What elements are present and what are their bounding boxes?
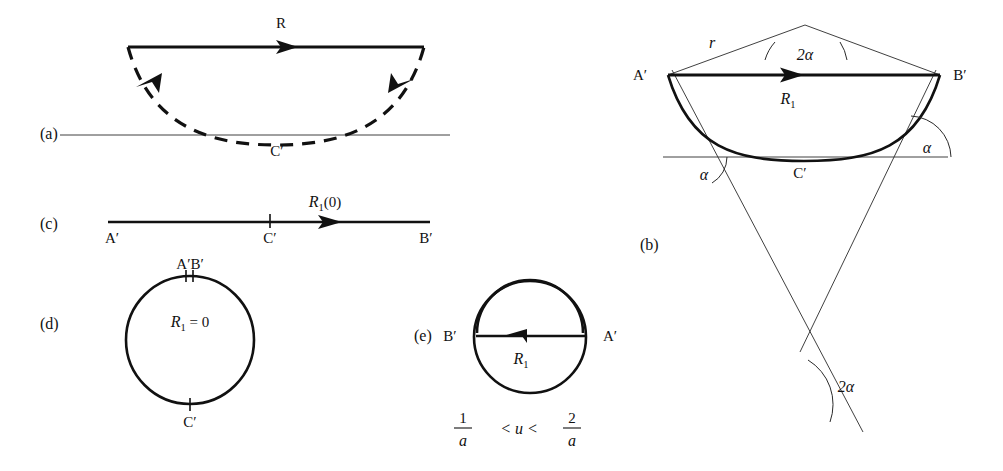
panel-b-long-line-right [800,70,936,352]
geodesic-figure-svg: (a) R C′ (b) [0,0,1003,471]
panel-b-key: (b) [640,236,659,254]
panel-b-apex-angle-label: 2α [797,46,814,63]
panel-e-vector-sub: 1 [523,359,528,370]
panel-b-bottom-angle-arc [808,360,833,422]
panel-e-point-b-label: B′ [443,328,456,344]
panel-b-point-c-label: C′ [793,165,806,181]
panel-b-long-line-left [672,70,863,432]
panel-c-vector-base: R [308,193,319,210]
panel-a-point-c-label: C′ [270,143,283,159]
panel-b-point-a-label: A′ [633,67,647,83]
panel-c-point-c-label: C′ [263,230,276,246]
panel-b-geodesic-arc [668,75,940,161]
panel-b-point-b-label: B′ [953,67,966,83]
panel-c-point-b-label: B′ [419,230,432,246]
panel-e-chord-arrowhead [503,329,527,343]
panel-b-vector-r1-sub: 1 [790,99,795,110]
panel-d-key: (d) [40,315,59,333]
panel-e: (e) B′ A′ R1 1 a < u < 2 a [414,280,617,449]
panel-b-alpha-left-label: α [700,166,709,183]
panel-a-dashed-arc [128,47,424,145]
panel-b-bottom-angle-label: 2α [838,378,855,395]
panel-c-vector-arg: (0) [324,194,342,211]
panel-b-vector-r1-label: R1 [779,90,795,110]
panel-e-key: (e) [414,327,432,345]
panel-e-inner-arc [477,280,583,333]
panel-b-vector-r1-base: R [779,90,790,107]
panel-a-arrowhead-right [388,73,414,93]
panel-d: (d) A′B′ C′ R1 = 0 [40,256,254,430]
panel-e-ineq-den1: a [459,432,467,449]
panel-c-key: (c) [40,215,58,233]
panel-d-circle [126,276,254,404]
panel-b-radius-left [668,25,805,75]
panel-b: (b) A′ B′ C [633,25,967,432]
panel-a-vector-label: R [276,15,286,31]
panel-e-vector-base: R [512,350,523,367]
panel-d-equation-label: R1 = 0 [170,313,210,333]
panel-b-apex-angle-arc-left [765,42,775,60]
panel-d-point-ab-label: A′B′ [176,256,203,272]
panel-e-ineq-num2: 2 [568,410,576,426]
panel-e-ineq-num1: 1 [459,410,467,426]
panel-c-point-a-label: A′ [105,230,119,246]
panel-d-equation-rest: = 0 [186,314,209,330]
panel-b-radius-right [805,25,940,75]
panel-a: (a) R C′ [40,15,450,159]
panel-a-key: (a) [40,125,58,143]
panel-c: (c) A′ C′ B′ R1(0) [40,193,433,246]
panel-e-ineq-mid: < u < [500,420,538,437]
panel-b-alpha-right-label: α [923,139,932,156]
panel-d-point-c-label: C′ [183,414,196,430]
panel-c-vector-label: R1(0) [308,193,342,213]
panel-e-inequality: 1 a < u < 2 a [454,410,581,449]
panel-e-ineq-den2: a [568,432,576,449]
figure-canvas: (a) R C′ (b) [0,0,1003,471]
panel-b-apex-angle-arc-right [840,42,847,60]
panel-e-vector-label: R1 [512,350,528,370]
panel-e-point-a-label: A′ [603,328,617,344]
panel-d-equation-base: R [170,313,181,330]
panel-b-radius-label: r [709,34,716,51]
